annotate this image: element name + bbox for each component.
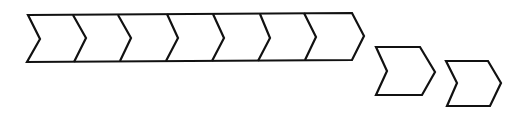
detached-chevron-1 xyxy=(376,47,435,95)
detached-chevron-2 xyxy=(446,61,501,106)
chevron-process-diagram xyxy=(0,0,524,114)
